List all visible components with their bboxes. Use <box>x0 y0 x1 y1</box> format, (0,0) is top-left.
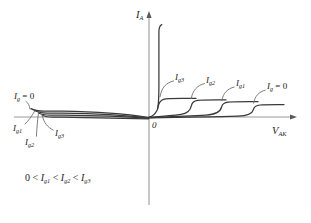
leader-forward-ig2 <box>191 84 204 99</box>
forward-curve-ig1 <box>149 102 258 118</box>
forward-curve-ig2 <box>149 100 226 118</box>
leader-lines-group <box>25 81 265 136</box>
label-forward-ig2: Ig2 <box>205 75 215 86</box>
leader-forward-ig1 <box>222 87 234 101</box>
origin-label: 0 <box>152 120 157 130</box>
thyristor-characteristic-figure: IA VAK 0 Ig3 Ig2 Ig1 Ig = 0 <box>0 0 311 223</box>
leader-forward-ig3 <box>160 81 174 97</box>
leader-reverse-ig1 <box>25 111 35 124</box>
leader-reverse-ig3 <box>42 116 53 130</box>
reverse-characteristics-group <box>31 109 149 119</box>
y-axis-arrow-icon <box>146 11 151 18</box>
label-forward-ig1: Ig1 <box>235 78 245 89</box>
label-forward-ig0: Ig = 0 <box>266 81 288 92</box>
label-reverse-ig0: Ig = 0 <box>13 91 35 102</box>
x-axis-label: VAK <box>272 125 287 137</box>
label-reverse-ig3: Ig3 <box>54 128 64 139</box>
forward-curve-ig3-plateau <box>158 98 196 108</box>
label-reverse-ig1: Ig1 <box>12 123 22 134</box>
leader-reverse-ig0 <box>26 101 30 109</box>
forward-characteristics-group <box>149 25 284 118</box>
label-forward-ig3: Ig3 <box>174 72 184 83</box>
label-reverse-ig2: Ig2 <box>24 137 34 148</box>
x-axis-arrow-icon <box>290 114 297 119</box>
gate-current-inequality: 0 < Ig1 < Ig2 < Ig3 <box>25 172 91 184</box>
forward-annotations-group: Ig3 Ig2 Ig1 Ig = 0 <box>174 72 288 92</box>
y-axis-label: IA <box>135 9 144 21</box>
